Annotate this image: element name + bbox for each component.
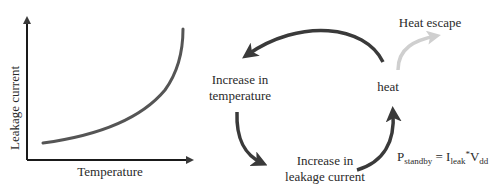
standby-power-formula: Pstandby = Ileak*Vdd (397, 146, 488, 169)
arrow-heat-to-temperature (247, 31, 383, 62)
node-text-line: Increase in (270, 153, 380, 169)
heat-escape-label: Heat escape (390, 15, 470, 31)
node-increase-leakage: Increase in leakage current (270, 153, 380, 185)
node-increase-temperature: Increase in temperature (200, 72, 280, 104)
formula-i-sub: leak (450, 156, 465, 166)
y-axis-label: Leakage current (7, 48, 23, 168)
arrow-heat-escape (398, 36, 436, 70)
node-heat: heat (368, 79, 408, 95)
x-axis-label: Temperature (40, 164, 180, 180)
formula-v: V (470, 149, 479, 164)
node-text-line: leakage current (270, 169, 380, 185)
leakage-curve (43, 29, 183, 143)
formula-p-sub: standby (404, 156, 432, 166)
formula-v-sub: dd (479, 156, 488, 166)
node-text-line: temperature (200, 88, 280, 104)
formula-eq: = (432, 149, 446, 164)
node-text-line: Increase in (200, 72, 280, 88)
arrow-temperature-to-leakage (237, 112, 262, 163)
